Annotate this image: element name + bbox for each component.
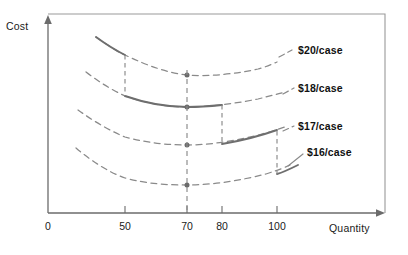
curve-20-solid-segment [96, 37, 125, 55]
curve-16-dashed [76, 148, 290, 185]
chart-canvas [0, 0, 408, 255]
curve-18-per-case [86, 72, 286, 110]
x-tick-label-50: 50 [119, 220, 131, 232]
curve-label-18-per-case: $18/case [298, 82, 343, 94]
leader-18 [283, 88, 294, 94]
curve-17-dashed [78, 110, 288, 145]
curve-16-marker-q70 [185, 183, 190, 188]
curve-18-solid-segment [125, 96, 222, 107]
step-drop-lines [125, 55, 277, 174]
x-tick-label-0: 0 [45, 220, 51, 232]
x-tick-label-80: 80 [216, 220, 228, 232]
curve-label-16-per-case: $16/case [307, 146, 352, 158]
x-axis-ticks [125, 206, 277, 213]
curve-label-17-per-case: $17/case [298, 120, 343, 132]
y-axis-title: Cost [6, 20, 28, 32]
curve-17-per-case [78, 110, 288, 148]
curve-label-20-per-case: $20/case [298, 44, 343, 56]
x-tick-label-70: 70 [181, 220, 193, 232]
curve-20-dashed [96, 37, 277, 76]
x-axis-title: Quantity [329, 222, 370, 234]
label-leader-lines [279, 50, 303, 166]
leader-16 [288, 154, 303, 166]
x-tick-label-100: 100 [268, 220, 286, 232]
leader-20 [279, 50, 292, 57]
y-axis-arrow [44, 15, 52, 24]
x-axis-arrow [376, 209, 385, 217]
cost-quantity-chart: Cost Quantity 0 50 70 80 100 $20/case $1… [0, 0, 408, 255]
